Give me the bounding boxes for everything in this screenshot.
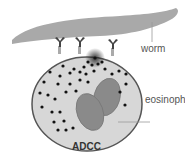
antibody-icon: [55, 37, 65, 54]
antibody-icon: [75, 37, 85, 54]
diagram-caption: ADCC: [72, 141, 101, 152]
worm-label: worm: [141, 43, 165, 54]
adcc-diagram: [0, 0, 185, 158]
eosinophil-label: eosinophil: [145, 94, 185, 105]
antibody-icon: [108, 39, 118, 56]
worm-shape: [12, 8, 178, 44]
